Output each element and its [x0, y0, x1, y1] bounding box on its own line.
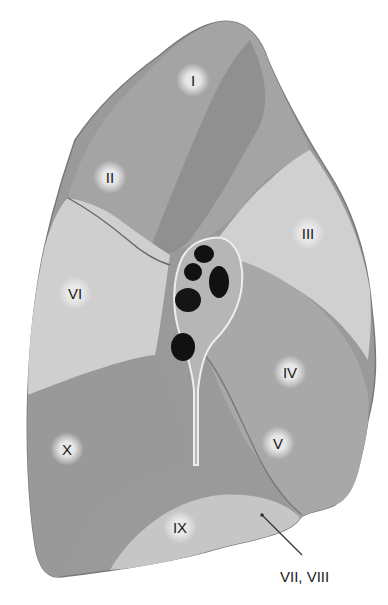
bronchus-2 [184, 263, 202, 281]
bronchus-5 [171, 333, 195, 361]
callout-label-VII-VIII: VII, VIII [280, 568, 329, 585]
bronchus-1 [194, 245, 214, 263]
bronchus-3 [209, 266, 229, 298]
bronchus-4 [175, 288, 201, 312]
